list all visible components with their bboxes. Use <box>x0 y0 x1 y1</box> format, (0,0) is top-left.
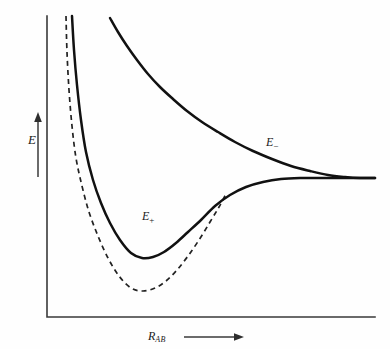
up-arrow-icon <box>34 112 42 122</box>
curve-label-e-plus: E+ <box>142 210 154 225</box>
x-axis-arrow-group <box>184 333 244 340</box>
bonding-curve-e-plus <box>72 16 375 258</box>
potential-energy-figure: E RAB E− E+ <box>0 0 390 349</box>
plot-canvas <box>0 0 390 349</box>
antibonding-curve-e-minus <box>110 18 375 178</box>
axis-frame <box>47 16 375 317</box>
right-arrow-icon <box>234 333 244 340</box>
y-axis-label: E <box>28 133 36 146</box>
curve-label-e-minus-subscript: − <box>273 141 278 151</box>
dashed-reference-curve <box>66 16 226 291</box>
curve-label-e-plus-subscript: + <box>149 215 154 225</box>
curve-label-e-minus: E− <box>266 136 278 151</box>
x-axis-label-subscript: AB <box>155 335 165 344</box>
x-axis-label: RAB <box>148 330 166 344</box>
